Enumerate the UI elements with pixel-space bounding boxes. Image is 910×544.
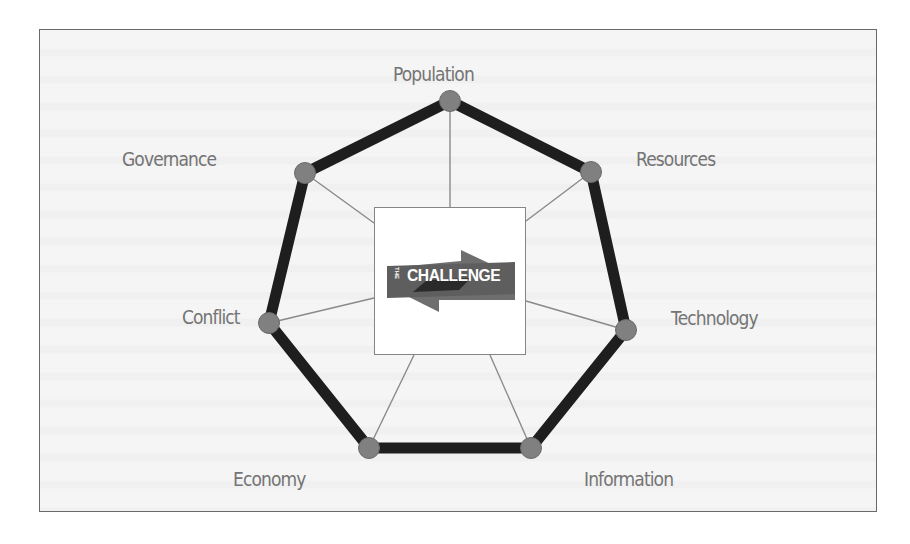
spoke-economy: [369, 355, 414, 448]
node-economy: [359, 438, 380, 459]
node-population: [440, 91, 461, 112]
node-resources: [581, 162, 602, 183]
spoke-resources: [526, 172, 591, 221]
label-conflict: Conflict: [182, 305, 240, 329]
label-resources: Resources: [636, 147, 715, 171]
logo-the-text: THE: [394, 266, 400, 280]
logo-title-text: CHALLENGE: [407, 267, 500, 285]
node-conflict: [259, 313, 280, 334]
label-governance: Governance: [122, 147, 216, 171]
node-governance: [295, 163, 316, 184]
spoke-governance: [305, 173, 374, 223]
label-information: Information: [584, 467, 673, 491]
spoke-conflict: [269, 298, 374, 323]
center-logo-box: THE CHALLENGE: [374, 207, 526, 355]
spoke-information: [490, 355, 531, 448]
label-population: Population: [393, 62, 474, 86]
label-economy: Economy: [233, 467, 305, 491]
label-technology: Technology: [671, 306, 758, 330]
node-technology: [616, 320, 637, 341]
spoke-technology: [526, 301, 626, 330]
node-information: [521, 438, 542, 459]
